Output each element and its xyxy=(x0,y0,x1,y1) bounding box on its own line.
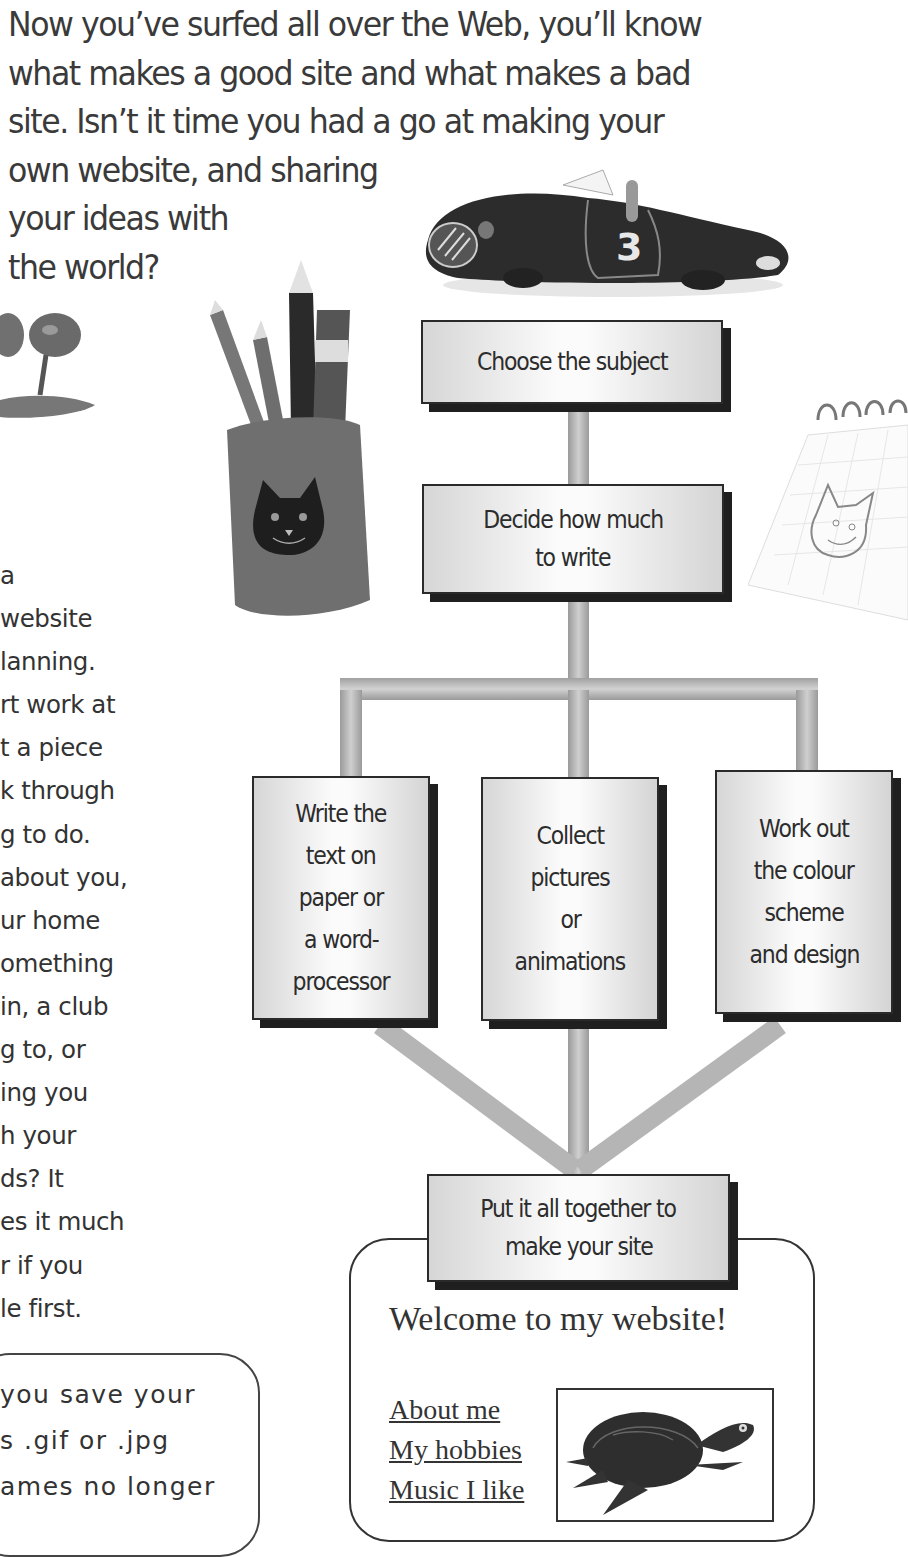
side-line: r if you xyxy=(0,1244,140,1287)
tortoise-illustration xyxy=(558,1390,772,1520)
intro-line: what makes a good site and what makes a … xyxy=(8,49,845,98)
side-line: g to, or xyxy=(0,1028,140,1071)
side-line: ur home xyxy=(0,899,140,942)
side-line: es it much xyxy=(0,1200,140,1243)
step-label: Work out xyxy=(759,808,849,850)
pencil-pot-illustration xyxy=(205,255,375,625)
side-line: lanning. xyxy=(0,640,140,683)
link-about-me[interactable]: About me xyxy=(389,1390,524,1430)
side-line: ing you xyxy=(0,1071,140,1114)
side-line: t a piece xyxy=(0,726,140,769)
side-line: k through xyxy=(0,769,140,812)
race-car-illustration: 3 xyxy=(418,160,800,302)
link-my-hobbies[interactable]: My hobbies xyxy=(389,1430,524,1470)
tip-line: you save your xyxy=(0,1372,216,1418)
intro-line: Now you’ve surfed all over the Web, you’… xyxy=(8,0,845,49)
side-line: about you, xyxy=(0,856,140,899)
step-label: Choose the subject xyxy=(477,341,667,383)
connector-pipe xyxy=(568,690,589,780)
side-line: le first. xyxy=(0,1287,140,1330)
notepad-cat-illustration xyxy=(748,395,908,625)
step-label: Collect xyxy=(536,815,603,857)
website-mock-image xyxy=(556,1388,774,1522)
tip-text: you save your s .gif or .jpg ames no lon… xyxy=(0,1372,216,1510)
side-paragraph: a website lanning. rt work at t a piece … xyxy=(0,554,140,1330)
step-label: the colour xyxy=(754,850,854,892)
side-line: rt work at xyxy=(0,683,140,726)
website-mock-title: Welcome to my website! xyxy=(389,1300,727,1338)
step-label: animations xyxy=(515,941,626,983)
step-label: Write the xyxy=(296,793,387,835)
step-label: paper or xyxy=(299,877,383,919)
step-label: Decide how much xyxy=(483,501,663,539)
side-line: omething xyxy=(0,942,140,985)
step-label: text on xyxy=(306,835,376,877)
step-label: a word- xyxy=(304,919,378,961)
step-collect-pictures: Collect pictures or animations xyxy=(481,777,659,1021)
trees-crayon-illustration xyxy=(0,305,100,435)
tip-line: ames no longer xyxy=(0,1464,216,1510)
step-put-together: Put it all together to make your site xyxy=(427,1174,730,1282)
tip-line: s .gif or .jpg xyxy=(0,1418,216,1464)
website-mock-nav: About me My hobbies Music I like xyxy=(389,1390,524,1510)
step-label: pictures xyxy=(530,857,609,899)
connector-pipe xyxy=(340,690,362,780)
step-colour-scheme: Work out the colour scheme and design xyxy=(715,770,893,1014)
converging-pipes xyxy=(340,1020,820,1180)
connector-pipe xyxy=(568,400,589,490)
intro-line: site. Isn’t it time you had a go at maki… xyxy=(8,97,845,146)
side-line: website xyxy=(0,597,140,640)
link-music-i-like[interactable]: Music I like xyxy=(389,1470,524,1510)
step-decide-amount: Decide how much to write xyxy=(422,484,724,594)
car-number-label: 3 xyxy=(616,225,642,269)
step-label: to write xyxy=(535,539,610,577)
side-line: g to do. xyxy=(0,813,140,856)
side-line: in, a club xyxy=(0,985,140,1028)
step-label: make your site xyxy=(505,1228,653,1266)
step-label: processor xyxy=(293,961,390,1003)
side-line: a xyxy=(0,554,140,597)
side-line: ds? It xyxy=(0,1157,140,1200)
step-label: or xyxy=(560,899,580,941)
step-label: and design xyxy=(749,934,859,976)
side-line: h your xyxy=(0,1114,140,1157)
step-label: scheme xyxy=(764,892,843,934)
step-write-text: Write the text on paper or a word- proce… xyxy=(252,776,430,1020)
connector-pipe xyxy=(568,595,589,685)
step-label: Put it all together to xyxy=(481,1190,677,1228)
connector-pipe xyxy=(796,690,818,775)
step-choose-subject: Choose the subject xyxy=(421,320,723,404)
